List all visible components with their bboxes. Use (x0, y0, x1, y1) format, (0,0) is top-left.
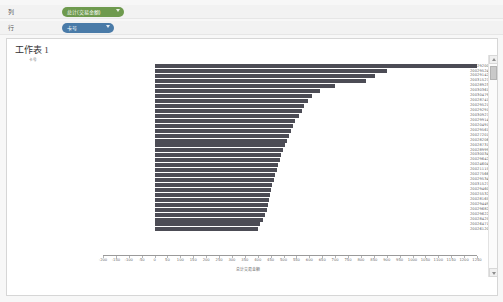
columns-shelf-pill[interactable]: 总计(交易金额) (62, 7, 124, 17)
bar[interactable] (155, 188, 271, 192)
bar[interactable] (155, 198, 269, 202)
bar[interactable] (155, 208, 267, 212)
x-axis-tick-label: 400 (254, 258, 261, 262)
x-axis-tick-label: 250 (216, 258, 223, 262)
x-axis-tick-label: 1200 (459, 258, 468, 262)
bar[interactable] (155, 74, 376, 78)
scroll-up-button[interactable] (489, 55, 498, 64)
view-card: 工作表 1 卡号 2002920020029524200291422003152… (6, 38, 498, 296)
x-axis-tick-label: 50 (165, 258, 170, 262)
bar[interactable] (155, 178, 274, 182)
bar[interactable] (155, 99, 308, 103)
x-axis-tick-label: 1150 (447, 258, 456, 262)
x-axis-tick-label: -50 (139, 258, 145, 262)
bar[interactable] (155, 129, 292, 133)
bar[interactable] (155, 203, 268, 207)
x-axis-tick-label: 500 (280, 258, 287, 262)
bar[interactable] (155, 119, 296, 123)
bar[interactable] (155, 148, 283, 152)
x-axis-tick-label: -100 (125, 258, 133, 262)
category-column-header: 卡号 (29, 57, 38, 62)
x-axis-tick-label: 650 (319, 258, 326, 262)
x-axis: 总计交易金额 -200-150-100-50050100150200250300… (7, 255, 489, 277)
bar[interactable] (155, 109, 302, 113)
bar[interactable] (155, 139, 287, 143)
x-axis-tick-label: 150 (190, 258, 197, 262)
x-axis-tick-label: 450 (267, 258, 274, 262)
x-axis-tick-label: 100 (177, 258, 184, 262)
bar-chart: 卡号 2002920020029524200291422003152720028… (7, 55, 489, 277)
x-axis-tick-label: -150 (112, 258, 120, 262)
bar-track (155, 227, 489, 232)
bar[interactable] (155, 222, 261, 226)
bar[interactable] (155, 158, 280, 162)
x-axis-tick-label: 350 (241, 258, 248, 262)
x-axis-title: 总计交易金额 (7, 266, 489, 272)
bar-rows: 2002920020029524200291422003152720028923… (7, 64, 489, 232)
bar[interactable] (155, 89, 320, 93)
bar[interactable] (155, 94, 312, 98)
x-axis-tick-label: 700 (332, 258, 339, 262)
x-axis-tick-label: 1000 (408, 258, 417, 262)
bar[interactable] (155, 84, 336, 88)
rows-shelf[interactable]: 行 卡号 (0, 21, 503, 35)
columns-shelf-label: 列 (8, 7, 15, 16)
table-row[interactable]: 20026120 (7, 227, 489, 232)
bar[interactable] (155, 213, 266, 217)
x-axis-line (103, 255, 477, 256)
bar[interactable] (155, 153, 282, 157)
x-axis-tick-label: 600 (306, 258, 313, 262)
bar[interactable] (155, 104, 305, 108)
columns-shelf[interactable]: 列 总计(交易金额) (0, 5, 503, 19)
bar[interactable] (155, 124, 293, 128)
bar[interactable] (155, 168, 277, 172)
chevron-up-icon (492, 58, 496, 61)
scrollbar-thumb[interactable] (490, 66, 497, 80)
bar[interactable] (155, 163, 279, 167)
bar[interactable] (155, 227, 258, 231)
bar[interactable] (155, 114, 299, 118)
bar[interactable] (155, 173, 276, 177)
rows-shelf-pill[interactable]: 卡号 (62, 23, 114, 33)
x-axis-tick-label: 1050 (421, 258, 430, 262)
x-axis-tick-label: 300 (228, 258, 235, 262)
x-axis-tick-label: 200 (203, 258, 210, 262)
x-axis-tick-label: 800 (357, 258, 364, 262)
chevron-down-icon[interactable] (116, 9, 120, 12)
x-axis-tick-label: 950 (396, 258, 403, 262)
bar[interactable] (155, 143, 285, 147)
rows-pill-label: 卡号 (67, 24, 77, 31)
bar[interactable] (155, 183, 273, 187)
x-axis-tick-label: 750 (345, 258, 352, 262)
x-axis-tick-label: -200 (99, 258, 107, 262)
tableau-worksheet: 列 总计(交易金额) 行 卡号 工作表 1 卡号 200292002002952… (0, 0, 503, 302)
chevron-down-icon (492, 272, 496, 275)
chevron-down-icon[interactable] (106, 25, 110, 28)
x-axis-tick-label: 1250 (472, 258, 481, 262)
columns-pill-label: 总计(交易金额) (67, 8, 100, 15)
shelf-panel: 列 总计(交易金额) 行 卡号 (0, 5, 503, 37)
rows-shelf-label: 行 (8, 23, 15, 32)
x-axis-tick-label: 850 (370, 258, 377, 262)
scroll-down-button[interactable] (489, 268, 498, 277)
x-axis-tick-label: 900 (383, 258, 390, 262)
bar[interactable] (155, 218, 263, 222)
bar[interactable] (155, 134, 289, 138)
x-axis-tick-label: 550 (293, 258, 300, 262)
bar[interactable] (155, 79, 367, 83)
bar[interactable] (155, 193, 270, 197)
x-axis-tick-label: 1100 (434, 258, 443, 262)
x-axis-tick-label: 0 (153, 258, 155, 262)
vertical-scrollbar[interactable] (488, 55, 497, 277)
